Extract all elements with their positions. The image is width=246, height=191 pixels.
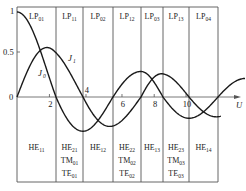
mode-label-he23: HE23 [168,143,184,153]
bessel-mode-diagram: 246810 1 0.5 0 U J 0 J 1 LP01LP11LP02LP1… [0,0,246,191]
svg-text:0: 0 [43,73,46,79]
x-tick-label: 2 [48,99,52,109]
mode-label-he14: HE14 [195,143,211,153]
mode-label-lp04: LP04 [196,12,211,22]
x-tick-label: 4 [85,85,90,95]
x-axis-label: U [236,100,243,110]
mode-label-te02: TE02 [119,169,135,179]
mode-label-te01: TE01 [62,169,78,179]
j0-curve [17,12,245,131]
mode-label-lp02: LP02 [91,12,106,22]
x-tick-label: 8 [153,99,157,109]
origin-label: 0 [9,92,13,102]
mode-label-tm03: TM03 [167,156,185,166]
x-axis-arrow-icon [234,95,241,99]
x-tick-label: 10 [183,99,192,109]
mode-label-tm02: TM02 [118,156,136,166]
mode-label-tm01: TM01 [61,156,79,166]
x-tick-label: 6 [121,99,125,109]
j1-curve [17,48,221,127]
svg-text:1: 1 [73,58,76,64]
j0-label: J 0 [38,68,46,79]
mode-label-lp03: LP03 [145,12,160,22]
mode-label-lp11: LP11 [62,12,77,22]
y-label-1: 1 [10,6,14,16]
y-label-05: 0.5 [3,47,14,57]
j1-label: J 1 [68,53,76,64]
mode-label-he22: HE22 [119,143,135,153]
mode-label-te03: TE03 [168,169,184,179]
mode-label-lp13: LP13 [169,12,184,22]
mode-label-lp12: LP12 [120,12,135,22]
mode-label-he11: HE11 [29,143,45,153]
mode-label-lp01: LP01 [29,12,44,22]
mode-label-he12: HE12 [90,143,106,153]
mode-label-he21: HE21 [61,143,77,153]
mode-label-he13: HE13 [144,143,160,153]
